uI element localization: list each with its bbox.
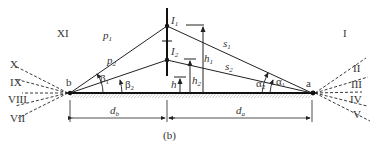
left-sector-rays [15, 66, 68, 118]
sector-V-label: V [353, 108, 361, 120]
height-h-label: h [171, 78, 177, 90]
ground-line [70, 93, 312, 98]
sector-XI-label: XI [57, 27, 69, 39]
sector-III-label: III [351, 78, 362, 90]
angle-alpha2-arc [270, 80, 273, 93]
propagation-geometry-diagram: XI X IX VIII VII I II III IV V b a I1 I2… [0, 0, 380, 148]
height-h1-label: h1 [204, 52, 213, 66]
path-p2 [70, 60, 167, 93]
angle-beta2-arc [120, 80, 122, 93]
source-I2-label: I2 [170, 45, 179, 59]
distance-db-label: db [110, 104, 120, 118]
angle-alpha2-label: α2 [256, 77, 266, 91]
point-a-label: a [306, 77, 311, 89]
sector-IX-label: IX [10, 76, 22, 88]
path-p1 [70, 26, 167, 93]
sector-VIII-label: VIII [8, 93, 27, 105]
path-s2-label: s2 [225, 60, 233, 74]
sector-VII-label: VII [10, 112, 26, 124]
path-s2 [167, 60, 312, 93]
point-b-dot [68, 91, 72, 95]
path-p1-label: p1 [102, 29, 112, 43]
path-p2-label: p2 [106, 54, 117, 68]
angle-beta2-label: β2 [125, 78, 135, 92]
angle-alpha1-label: α1 [276, 75, 286, 89]
diagram-canvas: XI X IX VIII VII I II III IV V b a I1 I2… [0, 0, 380, 148]
sector-I-label: I [343, 27, 347, 39]
angle-arcs [97, 73, 273, 93]
distance-da-label: da [236, 104, 246, 118]
path-s1-label: s1 [223, 37, 231, 51]
source-I1-label: I1 [170, 14, 178, 28]
point-b-label: b [66, 76, 72, 88]
height-h2-label: h2 [192, 74, 202, 88]
distance-dimensions [70, 100, 312, 122]
sector-X-label: X [10, 58, 18, 70]
point-a-dot [311, 91, 316, 96]
angle-beta1-label: β1 [100, 72, 110, 86]
sector-IV-label: IV [350, 93, 362, 105]
sector-II-label: II [353, 62, 361, 74]
figure-caption: (b) [163, 129, 176, 142]
